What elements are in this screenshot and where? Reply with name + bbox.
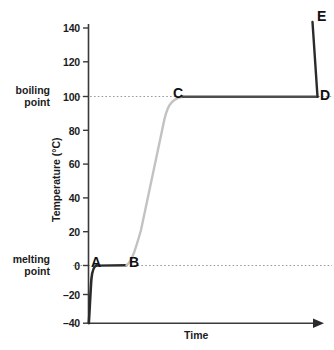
arrow-right-icon (313, 319, 324, 328)
melting-point-label-line2: point (0, 266, 50, 278)
point-label-c: C (173, 85, 183, 101)
boiling-point-label: boiling point (2, 85, 50, 108)
point-label-b: B (129, 254, 139, 270)
y-tick-label-120: 120 (56, 56, 80, 68)
y-tick-label-140: 140 (56, 22, 80, 34)
y-tick-label-80: 80 (56, 125, 80, 137)
y-tick-label-0: 0 (56, 260, 80, 272)
point-label-d: D (320, 87, 330, 103)
y-tick-label-minus40: –40 (54, 317, 80, 329)
y-axis-ticks (83, 28, 89, 323)
x-axis-title: Time (184, 329, 208, 341)
y-tick-label-20: 20 (56, 226, 80, 238)
melting-point-label: melting point (0, 254, 50, 277)
heating-curve-chart: 140 120 100 80 60 40 20 0 –20 –40 boilin… (0, 0, 334, 350)
boiling-point-label-line2: point (2, 97, 50, 109)
series-gas-heating (313, 22, 318, 97)
boiling-point-label-line1: boiling (2, 85, 50, 97)
point-label-e: E (317, 8, 326, 24)
y-tick-label-100: 100 (56, 91, 80, 103)
melting-point-label-line1: melting (0, 254, 50, 266)
series-solid-heating (89, 266, 97, 324)
series-liquid-heating (127, 97, 183, 265)
point-label-a: A (91, 254, 101, 270)
y-tick-label-minus20: –20 (54, 289, 80, 301)
y-axis-title: Temperature (°C) (50, 137, 62, 222)
